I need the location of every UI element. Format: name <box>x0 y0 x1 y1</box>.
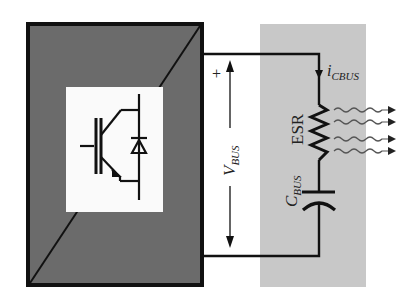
capacitor-region-background <box>260 24 366 287</box>
svg-text:ESR: ESR <box>288 113 307 145</box>
esr-label: ESR <box>288 113 307 145</box>
plus-sign-label: + <box>212 65 221 82</box>
capacitor-esr-diagram: + VBUS iCBUS ESR CBUS <box>0 0 415 305</box>
switch-window <box>66 87 163 212</box>
converter-block <box>28 24 202 285</box>
